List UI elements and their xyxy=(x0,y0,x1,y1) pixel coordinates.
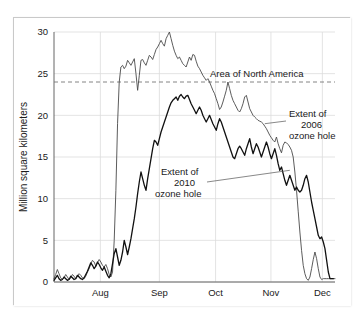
x-tick-label: Nov xyxy=(262,287,279,298)
x-tick-label: Oct xyxy=(208,287,223,298)
x-tick-label: Sep xyxy=(151,287,168,298)
y-tick-label: 5 xyxy=(43,235,48,246)
plot-background xyxy=(14,18,351,306)
annotation-2006-line-1: Extent of xyxy=(289,108,327,119)
annotation-area-of-north-america: Area of North America xyxy=(210,68,304,79)
annotation-2006-line-2: 2006 xyxy=(301,119,322,130)
y-tick-label: 0 xyxy=(43,276,48,287)
y-tick-label: 30 xyxy=(37,26,48,37)
y-tick-label: 20 xyxy=(37,110,48,121)
y-tick-label: 25 xyxy=(37,68,48,79)
annotation-2010-line-1: Extent of xyxy=(161,166,199,177)
y-tick-label: 10 xyxy=(37,193,48,204)
annotation-2006-line-3: ozone hole xyxy=(289,130,335,141)
figure-card: 051015202530 AugSepOctNovDec Million squ… xyxy=(13,17,350,305)
annotation-2010-line-3: ozone hole xyxy=(155,188,201,199)
ozone-hole-extent-chart: 051015202530 AugSepOctNovDec Million squ… xyxy=(14,18,351,306)
y-tick-label: 15 xyxy=(37,151,48,162)
x-tick-label: Dec xyxy=(314,287,331,298)
x-tick-label: Aug xyxy=(92,287,109,298)
y-axis-title: Million square kilometers xyxy=(18,102,29,212)
annotation-2010-line-2: 2010 xyxy=(174,177,195,188)
